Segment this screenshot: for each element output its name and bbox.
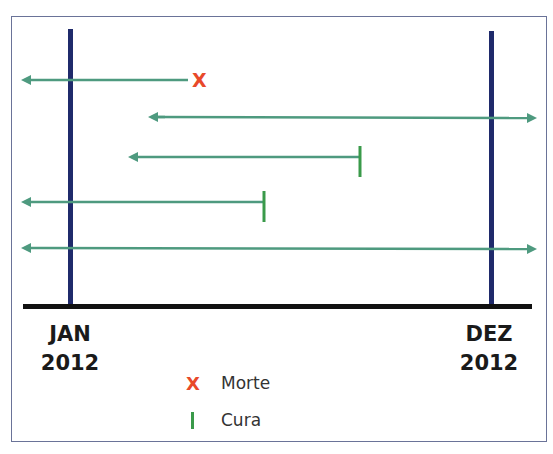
case-3-line (137, 146, 360, 177)
legend-cure-label: Cura (221, 410, 261, 430)
legend-death-label: Morte (221, 373, 270, 393)
case-5-line (30, 248, 528, 249)
legend-cure-icon (191, 412, 194, 429)
period-end-month: DEZ (449, 320, 529, 349)
case-2-line (157, 117, 528, 118)
period-start-label: JAN 2012 (30, 320, 110, 378)
case-4-line (30, 191, 264, 222)
period-end-label: DEZ 2012 (449, 320, 529, 378)
period-start-month: JAN (30, 320, 110, 349)
case-lines (0, 0, 553, 454)
period-start-year: 2012 (30, 349, 110, 378)
death-marker-icon: X (192, 69, 207, 91)
period-end-year: 2012 (449, 349, 529, 378)
legend-death-icon: X (186, 373, 200, 394)
